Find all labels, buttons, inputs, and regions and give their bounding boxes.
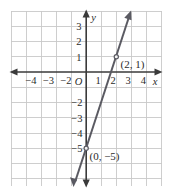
coordinate-plane-figure: −4 −3 −2 O 1 2 3 4 x 3 2 1 −2 −3 −4 −5 y…	[0, 0, 172, 195]
graph-svg: −4 −3 −2 O 1 2 3 4 x 3 2 1 −2 −3 −4 −5 y…	[0, 0, 172, 195]
x-tick-label-4: 4	[141, 75, 147, 86]
y-tick-label-neg5: −5	[71, 143, 82, 154]
y-tick-label-neg2: −2	[71, 97, 82, 108]
line-top-arrow	[124, 11, 131, 21]
y-tick-label-2: 2	[76, 36, 81, 47]
point-label-0-neg5: (0, −5)	[90, 150, 120, 163]
x-tick-label-1: 1	[95, 75, 100, 86]
point-marker-0-neg5	[84, 146, 88, 150]
y-axis-label: y	[90, 12, 96, 23]
x-axis-label: x	[152, 76, 158, 87]
y-axis-bottom-arrow	[83, 180, 90, 188]
x-tick-label-3: 3	[126, 75, 131, 86]
y-tick-label-neg4: −4	[71, 128, 83, 139]
point-label-2-1: (2, 1)	[121, 58, 145, 71]
y-tick-label-3: 3	[76, 21, 81, 32]
point-marker-2-1	[114, 55, 118, 59]
x-tick-label-neg3: −3	[43, 75, 54, 86]
x-tick-label-neg2: −2	[60, 75, 71, 86]
x-tick-label-2: 2	[110, 75, 115, 86]
x-tick-label-neg4: −4	[25, 75, 37, 86]
origin-label: O	[75, 76, 83, 87]
y-tick-label-1: 1	[76, 52, 81, 63]
y-tick-label-neg3: −3	[71, 113, 82, 124]
